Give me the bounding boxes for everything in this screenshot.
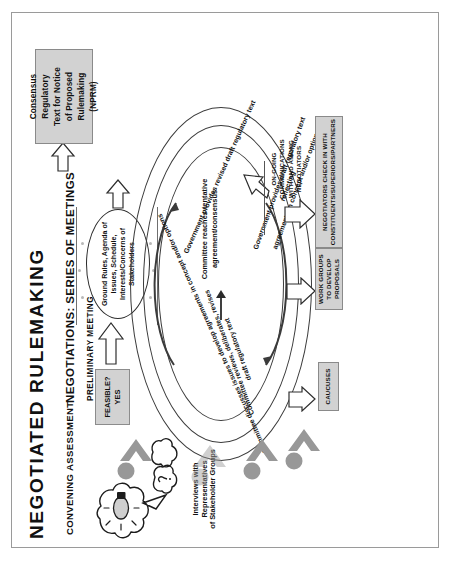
diagram-canvas: NEGOTIATED RULEMAKING CONVENING ASSESSME… bbox=[12, 17, 440, 553]
stakeholder-figure bbox=[284, 427, 328, 471]
arrow-to-work-groups bbox=[286, 277, 316, 305]
diagram-page: NEGOTIATED RULEMAKING CONVENING ASSESSME… bbox=[0, 0, 452, 570]
rotated-diagram-wrapper: NEGOTIATED RULEMAKING CONVENING ASSESSME… bbox=[0, 0, 452, 570]
side-box-caucuses: CAUCUSES bbox=[318, 362, 339, 411]
stakeholder-figure bbox=[190, 443, 234, 487]
ongoing-communications-label: ON-GOING COMMUNICATIONS WITH AND AMONG N… bbox=[270, 121, 303, 217]
nprm-output-box: Consensus Regulatory Text for Notice of … bbox=[35, 49, 93, 144]
arrow-to-caucuses bbox=[288, 386, 316, 412]
stakeholder-figure bbox=[116, 437, 160, 481]
feasible-yes-box: FEASIBLE? YES bbox=[95, 369, 130, 425]
arrow-preliminary-to-spiral bbox=[105, 179, 131, 209]
section-heading-convening-assessment: CONVENING ASSESSMENT bbox=[64, 401, 75, 535]
arrow-to-nprm-box bbox=[50, 142, 76, 172]
page-title: NEGOTIATED RULEMAKING bbox=[26, 248, 48, 539]
oval-tick-icon bbox=[81, 296, 84, 299]
stakeholder-figure bbox=[242, 437, 286, 481]
arrow-feasible-to-preliminary bbox=[96, 321, 126, 365]
side-box-negotiators-check-in: NEGOTIATORS CHECK IN WITH CONSTITUENTS/S… bbox=[315, 116, 343, 248]
divider bbox=[264, 161, 265, 235]
side-box-work-groups: WORK GROUPS TO DEVELOP PROPOSALS bbox=[315, 248, 343, 310]
divider bbox=[76, 207, 77, 325]
oval-tick-icon bbox=[78, 269, 81, 272]
oval-tick-icon bbox=[81, 242, 84, 245]
